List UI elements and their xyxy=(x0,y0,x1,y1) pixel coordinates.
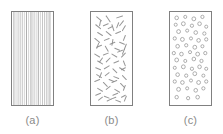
short-fiber-segment xyxy=(103,82,107,86)
short-fiber-segment xyxy=(95,38,100,42)
particle xyxy=(198,22,202,26)
short-fiber-segment xyxy=(97,43,99,48)
particle xyxy=(174,23,177,26)
particle xyxy=(184,15,187,18)
particle xyxy=(184,59,187,62)
short-fiber-segment xyxy=(116,100,121,102)
short-fiber-segment xyxy=(123,35,125,40)
short-fiber-segment xyxy=(111,97,116,99)
short-fiber-segment xyxy=(106,16,110,22)
short-fiber-segment xyxy=(106,86,110,89)
particle xyxy=(192,57,196,61)
short-fiber-segment xyxy=(95,80,100,82)
particle xyxy=(202,87,205,90)
particle xyxy=(189,37,192,40)
particle xyxy=(196,52,200,56)
particle xyxy=(181,81,185,85)
particle xyxy=(176,44,180,48)
short-fiber-segment xyxy=(95,54,100,57)
continuous-fiber-pattern xyxy=(12,12,53,105)
particle xyxy=(205,25,208,28)
panel-label-b: (b) xyxy=(90,113,133,127)
particle xyxy=(186,87,189,90)
particle xyxy=(202,74,205,77)
short-fiber-segment xyxy=(108,27,112,29)
particle xyxy=(175,16,179,20)
short-fiber-segment xyxy=(100,21,101,26)
particle xyxy=(193,45,197,49)
short-fiber-segment xyxy=(113,69,117,73)
short-fiber-segment xyxy=(98,88,103,91)
short-fiber-segment xyxy=(114,61,119,63)
short-fiber-segment xyxy=(106,58,110,62)
particle xyxy=(173,37,176,40)
short-fiber-segment xyxy=(96,93,101,95)
short-fiber-segment xyxy=(105,46,108,51)
short-fiber-segment xyxy=(114,77,119,79)
short-fiber-segment xyxy=(103,53,108,55)
short-fiber-segment xyxy=(120,42,125,44)
particle xyxy=(198,65,202,69)
particle xyxy=(177,30,181,34)
short-fiber-segment xyxy=(120,21,124,26)
particle xyxy=(201,45,204,48)
random-short-fiber-pattern xyxy=(91,12,132,105)
short-fiber-segment xyxy=(124,96,126,101)
short-fiber-segment xyxy=(104,66,109,69)
particle xyxy=(188,51,191,54)
panel-label-c: (c) xyxy=(169,113,212,127)
particle xyxy=(194,31,198,35)
short-fiber-segment xyxy=(106,32,111,36)
short-fiber-segment xyxy=(115,89,120,92)
short-fiber-segment xyxy=(115,48,120,50)
short-fiber-segment xyxy=(124,44,126,49)
particle xyxy=(186,29,189,32)
short-fiber-segment xyxy=(117,16,123,18)
particle xyxy=(185,74,188,77)
particle xyxy=(181,22,185,26)
particle xyxy=(197,81,201,85)
particle xyxy=(190,24,193,27)
particle xyxy=(200,59,203,62)
short-fiber-segment xyxy=(96,68,101,70)
short-fiber-segment xyxy=(109,80,114,82)
particle xyxy=(205,67,208,70)
short-fiber-segment xyxy=(113,93,118,95)
particle xyxy=(192,17,196,21)
particle xyxy=(175,58,179,62)
particle xyxy=(186,96,189,99)
particle xyxy=(201,15,204,18)
short-fiber-segment xyxy=(97,17,102,21)
particle xyxy=(197,39,201,43)
particle-pattern xyxy=(170,12,211,105)
short-fiber-segment xyxy=(112,54,117,57)
particle xyxy=(173,80,176,83)
short-fiber-segment xyxy=(99,97,103,100)
short-fiber-segment xyxy=(104,96,109,98)
panel-label-a: (a) xyxy=(11,113,54,127)
particle xyxy=(194,88,198,92)
particle xyxy=(177,87,181,91)
particle xyxy=(175,95,178,99)
short-fiber-segment xyxy=(122,76,126,80)
particle xyxy=(189,79,192,82)
short-fiber-segment xyxy=(112,25,114,31)
short-fiber-segment xyxy=(103,24,108,26)
short-fiber-segment xyxy=(100,58,103,62)
particle xyxy=(205,38,208,41)
short-fiber-segment xyxy=(104,38,109,40)
short-fiber-segment xyxy=(122,26,125,31)
particle xyxy=(176,73,180,77)
particle xyxy=(193,72,197,76)
short-fiber-segment xyxy=(123,61,125,66)
panel-a-continuous-aligned-fibers xyxy=(11,11,54,106)
particle xyxy=(181,65,185,69)
particle xyxy=(180,37,184,41)
particle xyxy=(190,67,193,70)
short-fiber-segment xyxy=(112,39,113,45)
short-fiber-segment xyxy=(121,83,125,87)
particle xyxy=(204,51,207,54)
short-fiber-segment xyxy=(122,95,126,97)
particle xyxy=(203,32,206,35)
composite-microstructure-figure: (a) (b) (c) xyxy=(0,0,223,134)
